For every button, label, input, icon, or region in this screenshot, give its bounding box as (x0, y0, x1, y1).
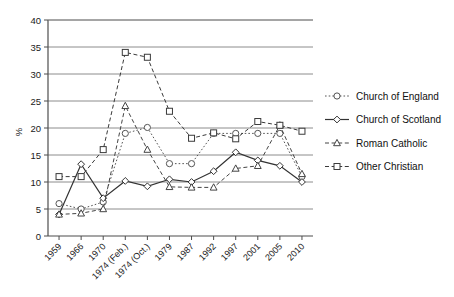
legend-label: Roman Catholic (356, 138, 427, 149)
data-point-circle (334, 93, 340, 99)
data-point-square (277, 122, 283, 128)
data-point-circle (122, 130, 128, 136)
y-axis-tick-label: 30 (30, 69, 41, 80)
data-point-triangle (144, 146, 151, 152)
y-axis-title: % (13, 127, 24, 136)
data-point-square (233, 136, 239, 142)
data-point-circle (56, 201, 62, 207)
data-point-triangle (100, 205, 107, 211)
legend-item-4[interactable]: Other Christian (325, 161, 423, 172)
data-point-square (299, 128, 305, 134)
data-point-circle (166, 161, 172, 167)
data-point-circle (188, 161, 194, 167)
data-point-square (211, 130, 217, 136)
x-axis-tick-label: 1987 (175, 241, 196, 262)
series-line (59, 52, 302, 176)
data-point-triangle (166, 183, 173, 189)
x-axis-tick-label: 1992 (197, 241, 218, 262)
data-point-square (78, 174, 84, 180)
y-axis-tick-label: 20 (30, 123, 41, 134)
legend-item-1[interactable]: Church of England (325, 91, 439, 102)
legend-label: Other Christian (356, 161, 423, 172)
series-1 (56, 124, 305, 212)
data-point-square (144, 54, 150, 60)
x-axis-tick-label: 2010 (285, 241, 306, 262)
legend-item-3[interactable]: Roman Catholic (325, 138, 427, 149)
x-axis-tick-label: 1959 (42, 241, 63, 262)
data-point-triangle (122, 102, 129, 108)
series-line (59, 106, 302, 215)
chart-container: 0510152025303540%1959196619701974 (Feb.)… (0, 0, 454, 297)
data-point-square (166, 108, 172, 114)
data-point-square (255, 119, 261, 125)
data-point-diamond (334, 116, 341, 123)
x-axis-tick-label: 2005 (263, 241, 284, 262)
series-line (59, 152, 302, 214)
x-axis-tick-label: 1997 (219, 241, 240, 262)
series-2 (56, 149, 306, 218)
series-line (59, 127, 302, 209)
data-point-triangle (254, 162, 261, 168)
x-axis-tick-label: 1979 (153, 241, 174, 262)
data-point-diamond (78, 161, 85, 168)
legend-item-2[interactable]: Church of Scotland (325, 114, 441, 125)
data-point-circle (144, 124, 150, 130)
data-point-circle (255, 130, 261, 136)
y-axis-tick-label: 40 (30, 15, 41, 26)
data-point-square (122, 49, 128, 55)
y-axis-tick-label: 5 (36, 204, 41, 215)
y-axis-tick-label: 25 (30, 96, 41, 107)
data-point-square (334, 164, 340, 170)
y-axis-tick-label: 10 (30, 177, 41, 188)
y-axis-tick-label: 35 (30, 42, 41, 53)
line-chart: 0510152025303540%1959196619701974 (Feb.)… (0, 0, 454, 297)
data-point-square (189, 135, 195, 141)
data-point-diamond (144, 183, 151, 190)
legend-label: Church of England (356, 91, 439, 102)
legend-label: Church of Scotland (356, 114, 441, 125)
data-point-square (56, 174, 62, 180)
y-axis-tick-label: 0 (36, 231, 41, 242)
y-axis-tick-label: 15 (30, 150, 41, 161)
series-4 (56, 49, 305, 179)
x-axis-tick-label: 2001 (241, 241, 262, 262)
x-axis-tick-label: 1966 (64, 241, 85, 262)
series-3 (56, 102, 306, 217)
data-point-square (100, 147, 106, 153)
